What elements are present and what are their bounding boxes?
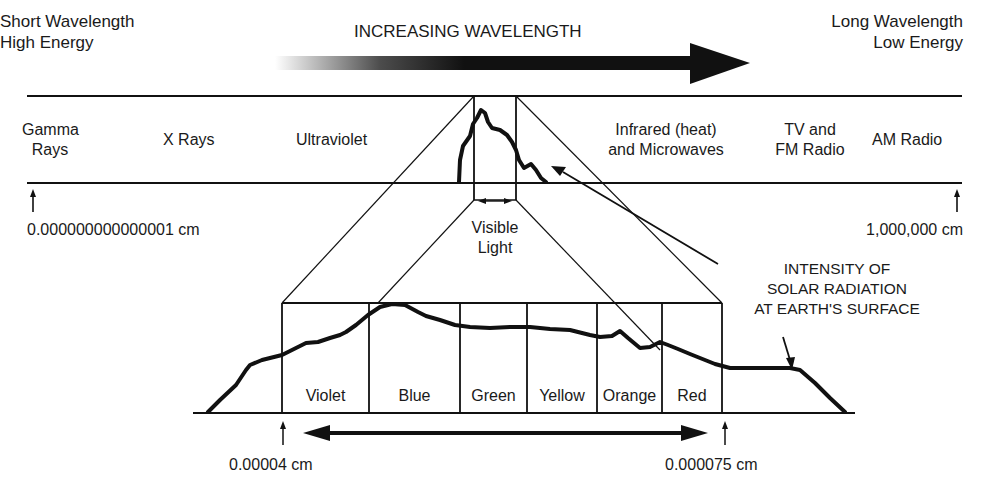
- color-band-green: Green: [460, 386, 527, 406]
- color-band-yellow: Yellow: [527, 386, 597, 406]
- solar-intensity-annotation: INTENSITY OF SOLAR RADIATION AT EARTH'S …: [737, 259, 937, 319]
- max-wavelength-label: 1,000,000 cm: [866, 219, 963, 240]
- visible-end-arrow-icon: [722, 421, 728, 445]
- band-tv-fm-radio: TV and FM Radio: [762, 120, 858, 160]
- band-tv-line1: TV and: [762, 120, 858, 140]
- short-wavelength-text: Short Wavelength: [0, 11, 135, 32]
- band-gamma-line1: Gamma: [22, 120, 78, 140]
- band-am-radio: AM Radio: [872, 130, 942, 150]
- max-wavelength-arrow-icon: [954, 189, 960, 212]
- increasing-wavelength-arrow-icon: [275, 43, 750, 84]
- visible-light-label: Visible Light: [455, 218, 535, 258]
- min-wavelength-label: 0.000000000000001 cm: [27, 219, 200, 240]
- high-energy-text: High Energy: [0, 32, 135, 53]
- solar-intensity-curve-small: [459, 110, 546, 182]
- color-band-violet: Violet: [282, 386, 369, 406]
- band-infrared-line2: and Microwaves: [584, 140, 748, 160]
- band-gamma-rays: Gamma Rays: [22, 120, 78, 160]
- annotation-line3: AT EARTH'S SURFACE: [737, 299, 937, 319]
- annotation-line2: SOLAR RADIATION: [737, 279, 937, 299]
- band-tv-line2: FM Radio: [762, 140, 858, 160]
- visible-light-line1: Visible: [455, 218, 535, 238]
- band-ultraviolet: Ultraviolet: [296, 130, 367, 150]
- low-energy-text: Low Energy: [831, 32, 963, 53]
- increasing-wavelength-title: INCREASING WAVELENGTH: [354, 21, 582, 42]
- band-x-rays: X Rays: [163, 130, 215, 150]
- color-band-blue: Blue: [369, 386, 460, 406]
- visible-start-arrow-icon: [280, 421, 286, 445]
- band-gamma-line2: Rays: [22, 140, 78, 160]
- annotation-line1: INTENSITY OF: [737, 259, 937, 279]
- electromagnetic-spectrum-diagram: Short Wavelength High Energy INCREASING …: [0, 0, 988, 503]
- visible-light-line2: Light: [455, 238, 535, 258]
- long-wavelength-text: Long Wavelength: [831, 11, 963, 32]
- band-infrared-microwaves: Infrared (heat) and Microwaves: [584, 120, 748, 160]
- long-wavelength-label: Long Wavelength Low Energy: [831, 11, 963, 53]
- intensity-pointer-arrow-large-icon: [783, 337, 795, 370]
- short-wavelength-label: Short Wavelength High Energy: [0, 11, 135, 53]
- color-band-red: Red: [662, 386, 722, 406]
- intensity-pointer-arrow-icon: [551, 166, 718, 264]
- visible-start-label: 0.00004 cm: [229, 454, 313, 475]
- visible-end-label: 0.000075 cm: [665, 454, 758, 475]
- band-infrared-line1: Infrared (heat): [584, 120, 748, 140]
- color-band-orange: Orange: [597, 386, 662, 406]
- visible-range-double-arrow-icon: [303, 425, 708, 441]
- min-wavelength-arrow-icon: [30, 189, 36, 212]
